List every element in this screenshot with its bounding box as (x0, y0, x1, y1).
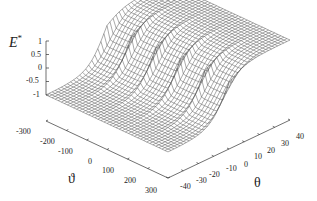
x-tick: -200 (40, 138, 55, 146)
z-tick-1: 1 (38, 38, 42, 46)
x-tick: 0 (88, 158, 92, 166)
surface-mesh (46, 0, 290, 152)
y-axis-title: θ (254, 176, 261, 190)
y-tick: -30 (196, 177, 207, 185)
y-tick: -20 (209, 171, 220, 179)
y-tick: 30 (281, 140, 289, 148)
x-tick: 300 (145, 187, 157, 195)
y-tick: 0 (244, 161, 248, 169)
z-tick-neg1: -1 (33, 91, 40, 99)
surface-plot (0, 0, 317, 201)
y-tick: -10 (226, 165, 237, 173)
z-axis-title: E* (9, 34, 22, 50)
x-tick: 100 (102, 167, 114, 175)
y-tick: 10 (254, 153, 262, 161)
z-tick-0: 0 (38, 64, 42, 72)
y-tick: 40 (296, 133, 304, 141)
x-tick: 200 (124, 177, 136, 185)
y-tick: -40 (180, 183, 191, 191)
x-tick: -100 (58, 148, 73, 156)
z-tick-neg0.5: -0.5 (26, 77, 39, 85)
z-tick-0.5: 0.5 (31, 51, 41, 59)
x-tick: -300 (16, 128, 31, 136)
y-tick: 20 (267, 147, 275, 155)
x-axis-title: ϑ (68, 172, 75, 186)
